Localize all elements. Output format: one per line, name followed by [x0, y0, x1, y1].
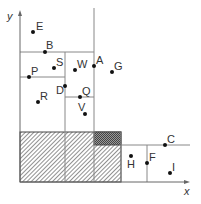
y-axis-arrow-icon: [18, 10, 22, 16]
point-d-label: D: [56, 84, 64, 96]
point-r-label: R: [40, 90, 48, 102]
point-p-label: P: [31, 65, 38, 77]
kd-tree-diagram: y x EBSPWAGDRQVCHFI: [0, 0, 201, 204]
point-s-label: S: [56, 56, 63, 68]
cross-hatched-region: [94, 132, 121, 145]
point-a-label: A: [96, 54, 104, 66]
x-axis-arrow-icon: [184, 180, 190, 184]
point-w-label: W: [77, 58, 88, 70]
point-v-label: V: [78, 101, 86, 113]
point-q-label: Q: [82, 85, 91, 97]
point-c-label: C: [167, 133, 175, 145]
point-i-label: I: [172, 161, 175, 173]
point-e-label: E: [36, 20, 43, 32]
y-axis-label: y: [6, 10, 14, 22]
point-e-dot: [31, 30, 35, 34]
point-b-label: B: [46, 39, 53, 51]
x-axis-label: x: [183, 185, 190, 197]
point-f-label: F: [149, 151, 156, 163]
point-g-label: G: [114, 60, 123, 72]
point-h-label: H: [127, 158, 135, 170]
